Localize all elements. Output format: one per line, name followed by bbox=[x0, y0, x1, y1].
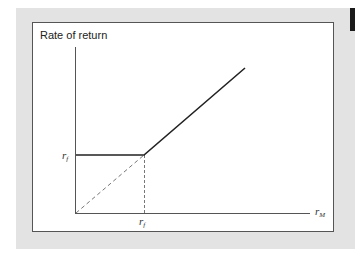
x-axis-label: rM bbox=[315, 205, 326, 219]
payoff-line bbox=[76, 68, 245, 155]
x-tick-rf: rf bbox=[139, 215, 146, 229]
chart-svg: rf rf rM bbox=[0, 0, 355, 256]
y-tick-rf: rf bbox=[62, 149, 69, 163]
reference-dashed-line bbox=[76, 155, 144, 213]
